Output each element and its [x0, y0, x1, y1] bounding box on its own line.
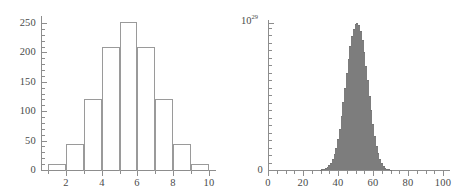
y-axis-minor-tick — [42, 105, 45, 106]
x-axis-minor-tick — [321, 171, 322, 174]
y-axis-tick-label: 200 — [5, 47, 36, 58]
y-axis-tick — [42, 23, 47, 24]
x-axis-tick — [303, 171, 304, 176]
y-axis-minor-tick — [42, 158, 45, 159]
y-axis-tick-label: 150 — [5, 77, 36, 88]
x-axis-tick-label: 4 — [87, 178, 117, 189]
histogram-bar — [120, 22, 138, 171]
y-axis-minor-tick — [269, 80, 272, 81]
x-axis-tick-label: 60 — [358, 178, 388, 189]
y-axis-minor-tick — [269, 140, 272, 141]
x-axis-tick-label: 6 — [122, 178, 152, 189]
x-axis-tick — [338, 171, 339, 176]
y-axis-minor-tick — [42, 99, 45, 100]
y-axis-minor-tick — [269, 73, 272, 74]
y-axis-scale-mantissa: 10 — [241, 15, 252, 26]
x-axis-minor-tick — [329, 171, 330, 174]
x-axis-tick — [408, 171, 409, 176]
y-axis-minor-tick — [269, 95, 272, 96]
right-histogram-panel: 0020406080100 1029 — [232, 0, 465, 195]
y-axis-scale-label: 1029 — [241, 14, 258, 26]
y-axis-tick-label: 100 — [5, 106, 36, 117]
y-axis-tick-label: 0 — [5, 165, 36, 176]
y-axis-minor-tick — [42, 35, 45, 36]
x-axis-tick — [66, 171, 67, 176]
y-axis-minor-tick — [42, 58, 45, 59]
y-axis-minor-tick — [269, 133, 272, 134]
y-axis-tick — [42, 82, 47, 83]
x-axis-tick-label: 20 — [288, 178, 318, 189]
y-axis-minor-tick — [269, 155, 272, 156]
x-axis-tick-label: 80 — [393, 178, 423, 189]
x-axis-tick — [373, 171, 374, 176]
x-axis-minor-tick — [417, 171, 418, 174]
histogram-bar — [390, 170, 392, 171]
y-axis-minor-tick — [42, 117, 45, 118]
y-axis-tick — [269, 170, 274, 171]
x-axis-minor-tick — [120, 171, 121, 174]
y-axis-minor-tick — [269, 43, 272, 44]
histogram-bar — [66, 144, 84, 171]
figure-container: 050100150200250246810 0020406080100 1029 — [0, 0, 465, 195]
y-axis-minor-tick — [42, 29, 45, 30]
x-axis-tick-label: 0 — [253, 178, 283, 189]
histogram-bar — [155, 99, 173, 171]
y-axis-minor-tick — [42, 94, 45, 95]
x-axis-tick-label: 100 — [428, 178, 458, 189]
x-axis-minor-tick — [286, 171, 287, 174]
y-axis-minor-tick — [269, 110, 272, 111]
y-axis-minor-tick — [269, 50, 272, 51]
x-axis-line — [268, 170, 450, 171]
y-axis-minor-tick — [269, 118, 272, 119]
x-axis-minor-tick — [434, 171, 435, 174]
x-axis-minor-tick — [155, 171, 156, 174]
y-axis-minor-tick — [42, 88, 45, 89]
y-axis-tick-label: 250 — [5, 18, 36, 29]
x-axis-tick — [102, 171, 103, 176]
x-axis-minor-tick — [294, 171, 295, 174]
x-axis-minor-tick — [391, 171, 392, 174]
y-axis-minor-tick — [42, 152, 45, 153]
x-axis-minor-tick — [426, 171, 427, 174]
y-axis-minor-tick — [42, 47, 45, 48]
x-axis-minor-tick — [382, 171, 383, 174]
y-axis-tick — [42, 52, 47, 53]
y-axis-minor-tick — [269, 163, 272, 164]
y-axis-minor-tick — [42, 123, 45, 124]
x-axis-tick-label: 10 — [194, 178, 224, 189]
x-axis-tick — [443, 171, 444, 176]
x-axis-minor-tick — [364, 171, 365, 174]
histogram-bar — [173, 144, 191, 171]
x-axis-tick — [209, 171, 210, 176]
y-axis-minor-tick — [42, 135, 45, 136]
x-axis-minor-tick — [191, 171, 192, 174]
y-axis-tick — [42, 111, 47, 112]
y-axis-minor-tick — [269, 58, 272, 59]
y-axis-minor-tick — [269, 103, 272, 104]
x-axis-minor-tick — [312, 171, 313, 174]
x-axis-tick — [173, 171, 174, 176]
y-axis-minor-tick — [42, 64, 45, 65]
y-axis-tick — [42, 170, 47, 171]
histogram-bar — [84, 99, 102, 171]
x-axis-minor-tick — [347, 171, 348, 174]
x-axis-minor-tick — [84, 171, 85, 174]
y-axis-minor-tick — [42, 129, 45, 130]
y-axis-tick-label: 50 — [5, 136, 36, 147]
y-axis-minor-tick — [269, 88, 272, 89]
x-axis-minor-tick — [399, 171, 400, 174]
y-axis-tick — [42, 141, 47, 142]
y-axis-minor-tick — [42, 146, 45, 147]
left-histogram-panel: 050100150200250246810 — [0, 0, 232, 195]
y-axis-minor-tick — [42, 164, 45, 165]
x-axis-tick-label: 2 — [51, 178, 81, 189]
y-axis-minor-tick — [269, 125, 272, 126]
y-axis-minor-tick — [269, 148, 272, 149]
y-axis-minor-tick — [269, 65, 272, 66]
x-axis-minor-tick — [277, 171, 278, 174]
y-axis-minor-tick — [42, 70, 45, 71]
histogram-bar — [191, 164, 209, 171]
y-axis-minor-tick — [269, 35, 272, 36]
y-axis-minor-tick — [42, 76, 45, 77]
x-axis-tick-label: 8 — [158, 178, 188, 189]
